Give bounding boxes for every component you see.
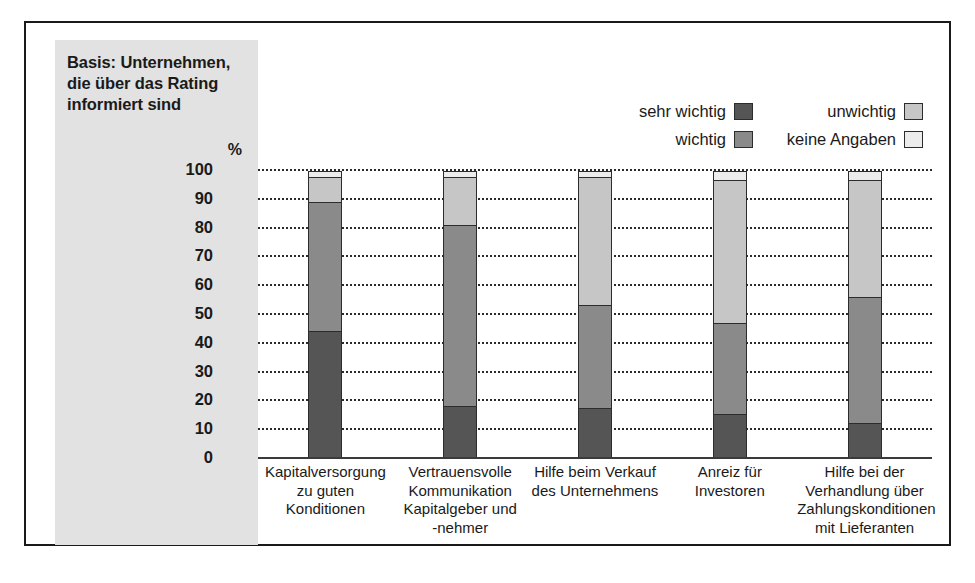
y-axis-tick-label: 80 [153,219,213,235]
x-axis-line [258,457,932,459]
bar-5 [848,171,882,459]
basis-caption: Basis: Unternehmen, die über das Rating … [67,52,252,115]
bar-segment-wichtig [579,306,611,409]
x-axis-label-line: Konditionen [258,500,393,519]
x-axis-label-line: Verhandlung über [797,482,932,501]
x-axis-label-line: -nehmer [393,519,528,538]
y-axis-tick-label: 10 [153,420,213,436]
x-axis-label-5: Hilfe bei derVerhandlung überZahlungskon… [797,463,932,537]
bar-4 [713,171,747,459]
bar-segment-keine-Angaben [714,172,746,181]
y-axis-tick-label: 70 [153,247,213,263]
bar-segment-sehr-wichtig [579,409,611,458]
bar-segment-sehr-wichtig [309,332,341,458]
bar-segment-unwichtig [444,178,476,227]
x-axis-label-line: Hilfe beim Verkauf [528,463,663,482]
x-axis-label-line: Anreiz für [662,463,797,482]
y-axis-tick-label: 50 [153,305,213,321]
legend-label: sehr wichtig [639,102,726,121]
x-axis-label-line: Kommunikation [393,482,528,501]
x-axis-label-line: Kapitalversorgung [258,463,393,482]
y-axis-tick-label: 60 [153,276,213,292]
x-axis-label-line: Vertrauensvolle [393,463,528,482]
legend-swatch-icon [904,131,923,148]
y-axis-tick-label: 40 [153,334,213,350]
bar-segment-sehr-wichtig [714,415,746,458]
legend-item-unwichtig: unwichtig [753,102,923,121]
x-axis-label-3: Hilfe beim Verkaufdes Unternehmens [528,463,663,500]
basis-line-1: Basis: Unternehmen, [67,52,252,73]
bar-segment-wichtig [714,324,746,416]
bar-segment-wichtig [444,226,476,406]
x-axis-label-4: Anreiz fürInvestoren [662,463,797,500]
bar-3 [578,171,612,459]
bar-segment-unwichtig [579,178,611,307]
bar-2 [443,171,477,459]
x-axis-label-line: des Unternehmens [528,482,663,501]
bar-segment-sehr-wichtig [849,424,881,458]
legend-swatch-icon [904,103,923,120]
legend-label: unwichtig [827,102,896,121]
x-axis-label-line: mit Lieferanten [797,519,932,538]
x-axis-label-line: Kapitalgeber und [393,500,528,519]
y-axis-tick-label: 0 [153,449,213,465]
legend-label: wichtig [676,130,726,149]
legend-label: keine Angaben [787,130,896,149]
y-axis-tick-label: 30 [153,363,213,379]
bar-segment-unwichtig [309,178,341,204]
plot-area [258,169,932,459]
bar-segment-wichtig [309,203,341,332]
bar-segment-unwichtig [849,181,881,298]
y-axis-unit-label: % [55,141,242,159]
bar-segment-unwichtig [714,181,746,324]
x-axis-label-line: zu guten [258,482,393,501]
legend-swatch-icon [734,103,753,120]
y-axis-tick-label: 90 [153,190,213,206]
legend-swatch-icon [734,131,753,148]
legend-item-wichtig: wichtig [523,130,753,149]
chart-figure: Basis: Unternehmen, die über das Rating … [24,21,951,546]
bar-segment-keine-Angaben [849,172,881,181]
bar-segment-wichtig [849,298,881,424]
x-axis-label-line: Zahlungskonditionen [797,500,932,519]
x-axis-label-1: Kapitalversorgungzu gutenKonditionen [258,463,393,519]
legend-item-sehr-wichtig: sehr wichtig [523,102,753,121]
basis-line-2: die über das Rating [67,73,252,94]
bar-segment-sehr-wichtig [444,407,476,458]
x-axis-label-2: VertrauensvolleKommunikationKapitalgeber… [393,463,528,537]
y-axis-tick-label: 100 [153,161,213,177]
bar-1 [308,171,342,459]
basis-panel: Basis: Unternehmen, die über das Rating … [55,40,258,545]
legend-item-keine-angaben: keine Angaben [753,130,923,149]
y-axis-tick-label: 20 [153,391,213,407]
chart-legend: sehr wichtig wichtig unwichtig keine Ang… [523,102,923,156]
x-axis-label-line: Hilfe bei der [797,463,932,482]
x-axis-label-line: Investoren [662,482,797,501]
basis-line-3: informiert sind [67,94,252,115]
